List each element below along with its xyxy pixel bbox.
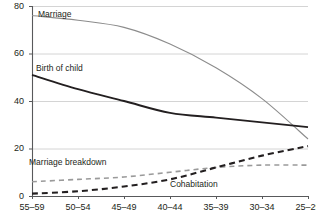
x-tick-label: 55–59 <box>19 203 44 212</box>
y-tick-label: 20 <box>2 144 24 153</box>
line-chart-plot <box>0 0 316 218</box>
gridlines <box>32 7 308 197</box>
x-tick-label: 50–54 <box>65 203 90 212</box>
series-label-marriage-breakdown: Marriage breakdown <box>29 158 106 167</box>
y-tick-label: 40 <box>2 97 24 106</box>
series-label-cohabitation: Cohabitation <box>170 180 218 189</box>
x-tick-label: 45–49 <box>111 203 136 212</box>
x-tick-label: 25–29 <box>295 203 316 212</box>
x-tick-label: 30–34 <box>249 203 274 212</box>
y-tick-label: 80 <box>2 2 24 11</box>
y-tick-label: 0 <box>2 192 24 201</box>
chart-container: 020406080 55–5950–5445–4940–4435–3930–34… <box>0 0 316 218</box>
x-tick-label: 35–39 <box>203 203 228 212</box>
x-tick-label: 40–44 <box>157 203 182 212</box>
y-tick-label: 60 <box>2 49 24 58</box>
series-label-birth-of-child: Birth of child <box>36 64 83 73</box>
y-axis-ticks <box>29 7 32 197</box>
series-label-marriage: Marriage <box>38 10 72 19</box>
series-line-marriage <box>32 16 308 140</box>
